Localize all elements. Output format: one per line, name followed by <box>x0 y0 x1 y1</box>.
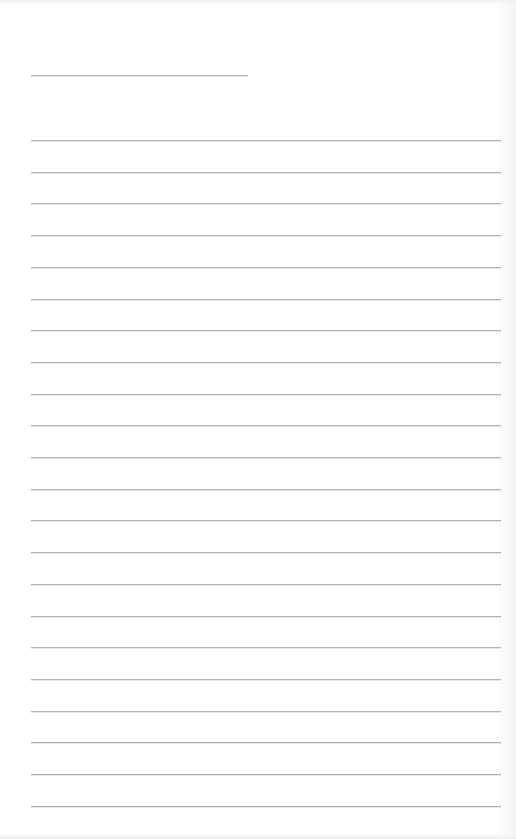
ruled-line <box>31 679 501 680</box>
ruled-line <box>31 457 501 458</box>
ruled-line <box>31 552 501 553</box>
ruled-line <box>31 235 501 236</box>
ruled-line <box>31 520 501 521</box>
ruled-line <box>31 742 501 743</box>
scan-edge-top <box>0 0 516 5</box>
ruled-line <box>31 425 501 426</box>
ruled-line <box>31 172 501 173</box>
ruled-line <box>31 140 501 141</box>
ruled-line <box>31 330 501 331</box>
ruled-line <box>31 616 501 617</box>
ruled-line <box>31 394 501 395</box>
ruled-line <box>31 299 501 300</box>
ruled-line <box>31 489 501 490</box>
ruled-line <box>31 362 501 363</box>
ruled-line <box>31 806 501 807</box>
ruled-line <box>31 647 501 648</box>
lined-paper-page <box>0 0 516 839</box>
scan-edge-bottom <box>0 833 516 839</box>
ruled-line <box>31 711 501 712</box>
name-line <box>31 75 248 76</box>
ruled-line <box>31 774 501 775</box>
ruled-line <box>31 203 501 204</box>
ruled-line <box>31 584 501 585</box>
ruled-line <box>31 267 501 268</box>
